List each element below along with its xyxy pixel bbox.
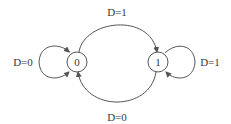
transition-1-to-0-label: D=0 [107,111,127,123]
self-loop-1-edge [165,46,195,78]
state-diagram: 0 1 D=0 D=1 D=1 D=0 [0,0,231,124]
self-loop-0-edge [39,46,70,78]
transition-0-to-1-label: D=1 [107,6,127,18]
self-loop-1-label: D=1 [200,56,220,68]
diagram-svg: 0 1 D=0 D=1 D=1 D=0 [0,0,231,124]
self-loop-0-arrow [39,46,69,78]
transition-0-to-1-edge [79,25,157,52]
state-1-label: 1 [155,56,161,68]
state-0-label: 0 [74,56,80,68]
transition-1-to-0-edge [78,72,156,102]
self-loop-0-label: D=0 [13,56,33,68]
